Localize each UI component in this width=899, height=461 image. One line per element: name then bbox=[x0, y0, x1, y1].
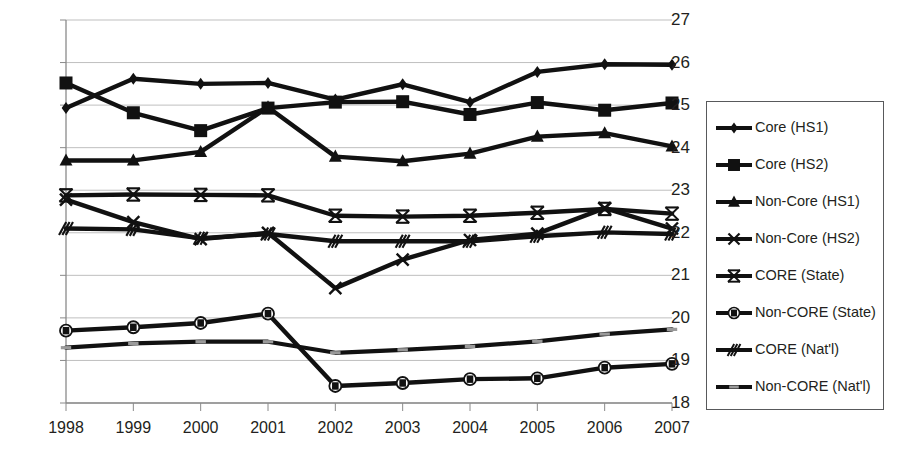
legend-item-core-hs2[interactable]: Core (HS2) bbox=[714, 146, 877, 183]
x-tick-label: 2004 bbox=[440, 420, 500, 436]
x-tick-label: 2005 bbox=[507, 420, 567, 436]
y-tick-label: 25 bbox=[644, 96, 690, 113]
x-tick-label: 2000 bbox=[171, 420, 231, 436]
y-tick-label: 20 bbox=[644, 309, 690, 326]
x-axis-ticks bbox=[66, 403, 672, 411]
legend-item-label: Non-Core (HS2) bbox=[755, 231, 860, 246]
legend-key-icon bbox=[714, 303, 754, 323]
legend-item-core-state[interactable]: CORE (State) bbox=[714, 257, 877, 294]
y-tick-label: 22 bbox=[644, 224, 690, 241]
legend-item-non-core-hs2[interactable]: Non-Core (HS2) bbox=[714, 220, 877, 257]
legend-key-icon bbox=[714, 192, 754, 212]
legend-item-label: CORE (State) bbox=[755, 268, 844, 283]
legend-item-label: Non-CORE (Nat'l) bbox=[755, 379, 871, 394]
legend-key-icon bbox=[714, 229, 754, 249]
x-tick-label: 2002 bbox=[305, 420, 365, 436]
x-tick-label: 1999 bbox=[103, 420, 163, 436]
legend-rows: Core (HS1)Core (HS2)Non-Core (HS1)Non-Co… bbox=[714, 109, 877, 405]
legend-item-label: Non-CORE (State) bbox=[755, 305, 876, 320]
legend-item-label: Non-Core (HS1) bbox=[755, 194, 860, 209]
y-tick-label: 19 bbox=[644, 351, 690, 368]
chart-canvas bbox=[0, 0, 690, 461]
legend-item-label: Core (HS1) bbox=[755, 120, 828, 135]
y-tick-label: 24 bbox=[644, 139, 690, 156]
legend-key-icon bbox=[714, 377, 754, 397]
legend-item-core-nat-l[interactable]: CORE (Nat'l) bbox=[714, 331, 877, 368]
legend-item-label: CORE (Nat'l) bbox=[755, 342, 839, 357]
series-non-core-nat-l bbox=[61, 328, 677, 355]
legend-item-non-core-nat-l[interactable]: Non-CORE (Nat'l) bbox=[714, 368, 877, 405]
series-core-state bbox=[60, 188, 679, 223]
legend-key-icon bbox=[714, 118, 754, 138]
x-tick-label: 2003 bbox=[373, 420, 433, 436]
x-tick-label: 1998 bbox=[36, 420, 96, 436]
legend-item-non-core-hs1[interactable]: Non-Core (HS1) bbox=[714, 183, 877, 220]
legend-key-icon bbox=[714, 266, 754, 286]
chart-root: 18192021222324252627 1998199920002001200… bbox=[0, 0, 899, 461]
x-tick-label: 2007 bbox=[642, 420, 702, 436]
legend-key-icon bbox=[714, 340, 754, 360]
x-tick-label: 2001 bbox=[238, 420, 298, 436]
y-tick-label: 26 bbox=[644, 54, 690, 71]
chart-legend: Core (HS1)Core (HS2)Non-Core (HS1)Non-Co… bbox=[706, 101, 884, 410]
legend-item-core-hs1[interactable]: Core (HS1) bbox=[714, 109, 877, 146]
series-core-hs2 bbox=[60, 76, 679, 137]
y-tick-label: 18 bbox=[644, 394, 690, 411]
x-tick-label: 2006 bbox=[575, 420, 635, 436]
legend-item-label: Core (HS2) bbox=[755, 157, 828, 172]
series-layer bbox=[59, 58, 679, 392]
y-tick-label: 23 bbox=[644, 181, 690, 198]
y-tick-label: 27 bbox=[644, 11, 690, 28]
legend-item-non-core-state[interactable]: Non-CORE (State) bbox=[714, 294, 877, 331]
plot-area: 18192021222324252627 1998199920002001200… bbox=[0, 0, 690, 461]
y-tick-label: 21 bbox=[644, 266, 690, 283]
legend-key-icon bbox=[714, 155, 754, 175]
